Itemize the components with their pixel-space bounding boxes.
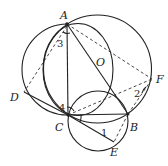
label-f: F (155, 73, 164, 86)
segment-ac (67, 24, 68, 115)
angle-label-2: 2 (134, 88, 140, 99)
label-e: E (109, 146, 118, 159)
geometry-diagram: A C B O D F E 1 2 3 4 (0, 0, 168, 166)
label-b: B (129, 121, 138, 134)
label-a: A (59, 9, 68, 22)
label-d: D (9, 91, 19, 104)
point-c (66, 113, 69, 116)
angle-label-1: 1 (101, 127, 107, 138)
circle-inner-ac (43, 24, 113, 116)
label-o: O (96, 56, 105, 69)
point-b (127, 113, 130, 116)
angle-arc-3 (63, 32, 70, 33)
point-a (65, 22, 69, 26)
segment-cb (68, 114, 128, 115)
label-c: C (55, 121, 64, 134)
segment-af (67, 24, 152, 79)
angle-label-4: 4 (59, 102, 65, 113)
angle-label-3: 3 (57, 38, 63, 49)
